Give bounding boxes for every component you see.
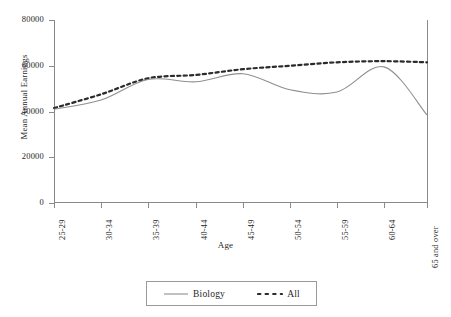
plot-area	[54, 20, 427, 203]
x-tick-25-29	[54, 203, 55, 208]
legend-label-biology: Biology	[193, 289, 225, 299]
x-tick-label-50-54: 50-54	[294, 219, 303, 240]
x-tick-50-54	[290, 203, 291, 208]
y-tick-label-80000: 80000	[22, 15, 44, 24]
x-tick-label-45-49: 45-49	[247, 219, 256, 240]
x-tick-label-40-44: 40-44	[200, 219, 209, 240]
x-tick-55-59	[337, 203, 338, 208]
y-tick-80000	[49, 20, 55, 21]
legend-entry-all: All	[257, 289, 300, 299]
x-tick-45-49	[243, 203, 244, 208]
x-tick-35-39	[148, 203, 149, 208]
x-tick-label-55-59: 55-59	[341, 219, 350, 240]
x-tick-label-30-34: 30-34	[105, 219, 114, 240]
x-tick-60-64	[384, 203, 385, 208]
chart-figure: Mean Annual Earnings 80000 60000 40000 2…	[0, 0, 451, 317]
y-tick-20000	[49, 157, 55, 158]
legend-label-all: All	[287, 289, 300, 299]
x-tick-65-and-over	[427, 203, 428, 208]
y-tick-label-20000: 20000	[22, 152, 44, 161]
y-tick-label-60000: 60000	[22, 61, 44, 70]
y-tick-label-40000: 40000	[22, 107, 44, 116]
x-tick-30-34	[101, 203, 102, 208]
x-tick-label-25-29: 25-29	[58, 219, 67, 240]
chart-legend: Biology All	[146, 281, 317, 306]
legend-entry-biology: Biology	[163, 289, 225, 299]
y-tick-60000	[49, 66, 55, 67]
y-tick-label-0: 0	[40, 198, 44, 207]
solid-line-swatch	[163, 289, 189, 299]
y-tick-40000	[49, 112, 55, 113]
x-tick-label-35-39: 35-39	[152, 219, 161, 240]
plot-right-rule	[427, 20, 428, 203]
x-axis-title: Age	[0, 240, 451, 250]
dotted-line-swatch	[257, 289, 283, 299]
y-axis-title: Mean Annual Earnings	[19, 27, 29, 167]
x-tick-label-60-64: 60-64	[388, 219, 397, 240]
x-tick-40-44	[196, 203, 197, 208]
